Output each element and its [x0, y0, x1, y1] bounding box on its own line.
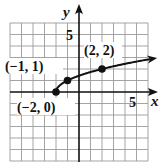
data-point	[52, 88, 60, 96]
x-axis-label: x	[150, 93, 159, 109]
point-label-2-2: (2, 2)	[84, 43, 115, 59]
data-point	[98, 65, 106, 73]
data-point	[64, 77, 72, 85]
y-axis-label: y	[61, 4, 70, 20]
curve	[56, 56, 157, 92]
point-label-neg2-0: (−2, 0)	[17, 100, 56, 116]
y-tick-5-label: 5	[66, 28, 73, 43]
graph: y x 5 5 (2, 2) (−1, 1) (−2, 0)	[0, 0, 167, 165]
point-label-neg1-1: (−1, 1)	[5, 59, 44, 75]
x-tick-5-label: 5	[129, 95, 136, 110]
